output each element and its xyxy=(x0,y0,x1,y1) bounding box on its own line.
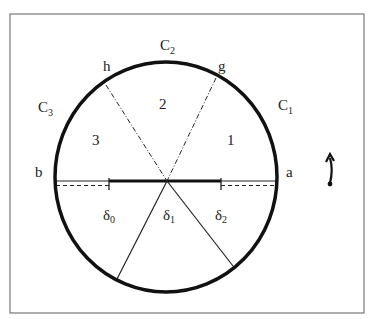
curved-up-arrow-icon xyxy=(326,154,334,186)
label-h: h xyxy=(103,58,111,74)
lower-left-line xyxy=(117,181,167,279)
circle-partition-diagram: C2 C3 C1 h g b a 2 3 1 δ0 δ1 δ2 xyxy=(0,0,372,319)
label-b: b xyxy=(35,164,43,180)
label-c2: C2 xyxy=(160,37,175,56)
figure-frame xyxy=(10,14,364,313)
region-2-label: 2 xyxy=(159,96,167,112)
region-3-label: 3 xyxy=(92,132,100,148)
label-delta0: δ0 xyxy=(103,207,115,225)
label-c3: C3 xyxy=(38,99,53,118)
label-delta2: δ2 xyxy=(215,207,227,225)
dashdot-radius-g xyxy=(167,78,216,181)
label-a: a xyxy=(286,164,293,180)
dashdot-radius-h xyxy=(106,85,167,181)
label-c1: C1 xyxy=(278,97,293,116)
label-g: g xyxy=(218,58,226,74)
label-delta1: δ1 xyxy=(163,207,175,225)
region-1-label: 1 xyxy=(227,132,235,148)
